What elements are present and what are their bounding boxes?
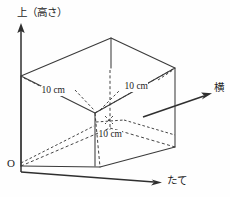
hidden-front-slant-edge (95, 113, 100, 167)
top-face-outline (21, 38, 175, 113)
depth-axis-line (21, 172, 154, 182)
origin-label: O (7, 158, 15, 169)
depth-axis-label: たて (167, 176, 187, 187)
dimension-guides (21, 70, 175, 163)
bottom-left-front-edge (21, 166, 100, 167)
axes-group (17, 23, 212, 185)
hidden-bottom-left-back-edge (21, 128, 110, 166)
height-dim-leader-lower-left (21, 126, 94, 163)
width-dim-leader-right (75, 90, 94, 110)
depth-dim-leader-left (100, 91, 119, 110)
height-dim-leader-right (124, 120, 175, 135)
height-dimension-label: 10 cm (98, 130, 122, 140)
box-hidden-edges (21, 68, 175, 167)
depth-dim-leader-right (158, 70, 173, 80)
width-dimension-label: 10 cm (41, 86, 65, 96)
vertical-axis-label: 上（高さ） (17, 8, 67, 19)
width-axis-line (143, 96, 204, 117)
width-axis-label: 横 (214, 83, 224, 94)
figure-container: 上（高さ） 横 たて O 10 cm 10 cm 10 cm (0, 0, 230, 197)
bottom-front-right-edge (100, 147, 175, 167)
depth-dimension-label: 10 cm (124, 82, 148, 92)
box-diagram-svg (0, 0, 230, 197)
